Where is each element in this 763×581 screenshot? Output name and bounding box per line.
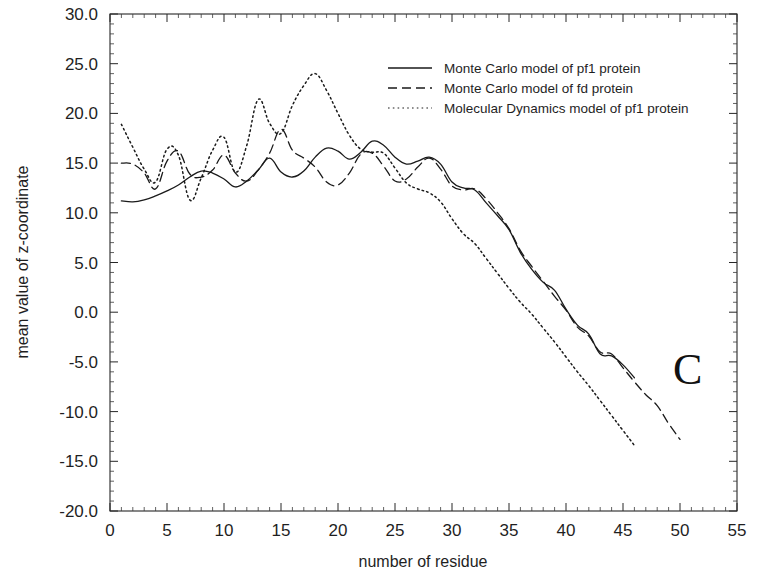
x-tick-label: 10 — [215, 521, 234, 540]
x-tick-label: 25 — [386, 521, 405, 540]
y-tick-label: -10.0 — [59, 403, 98, 422]
chart-legend: Monte Carlo model of pf1 proteinMonte Ca… — [388, 61, 689, 116]
legend-label-2: Monte Carlo model of fd protein — [444, 81, 633, 96]
x-tick-label: 0 — [105, 521, 114, 540]
y-tick-label: 5.0 — [74, 254, 98, 273]
x-tick-label: 40 — [557, 521, 576, 540]
chart-figure: 0510152025303540455055 -20.0-15.0-10.0-5… — [0, 0, 763, 581]
y-tick-label: 20.0 — [65, 104, 98, 123]
x-axis-title: number of residue — [359, 553, 488, 570]
x-tick-label: 15 — [272, 521, 291, 540]
series-line-3 — [121, 74, 634, 446]
series-line-1 — [121, 141, 634, 378]
x-tick-label: 30 — [443, 521, 462, 540]
y-axis-title: mean value of z-coordinate — [14, 165, 31, 358]
x-tick-label: 55 — [728, 521, 747, 540]
y-tick-label: -5.0 — [69, 353, 98, 372]
y-tick-label: -20.0 — [59, 502, 98, 521]
y-tick-label: 30.0 — [65, 5, 98, 24]
panel-label: C — [673, 345, 702, 394]
y-tick-label: 15.0 — [65, 154, 98, 173]
legend-label-1: Monte Carlo model of pf1 protein — [444, 61, 641, 76]
x-tick-label: 35 — [500, 521, 519, 540]
x-tick-label: 20 — [329, 521, 348, 540]
legend-label-3: Molecular Dynamics model of pf1 protein — [444, 101, 689, 116]
x-tick-label: 50 — [671, 521, 690, 540]
y-tick-label: 25.0 — [65, 55, 98, 74]
y-axis-tick-labels: -20.0-15.0-10.0-5.00.05.010.015.020.025.… — [59, 5, 98, 521]
y-tick-label: -15.0 — [59, 452, 98, 471]
x-tick-label: 5 — [162, 521, 171, 540]
series-paths — [121, 74, 680, 446]
x-axis-tick-labels: 0510152025303540455055 — [105, 521, 746, 540]
y-tick-label: 10.0 — [65, 204, 98, 223]
y-tick-label: 0.0 — [74, 303, 98, 322]
x-tick-label: 45 — [614, 521, 633, 540]
